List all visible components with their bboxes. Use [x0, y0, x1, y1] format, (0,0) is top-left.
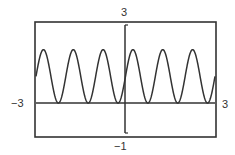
xmin-label: −3 — [11, 98, 24, 109]
plot-area — [0, 0, 235, 155]
xmax-label: 3 — [222, 99, 228, 110]
ymax-label: 3 — [121, 7, 127, 18]
ymin-label: −1 — [114, 141, 127, 152]
